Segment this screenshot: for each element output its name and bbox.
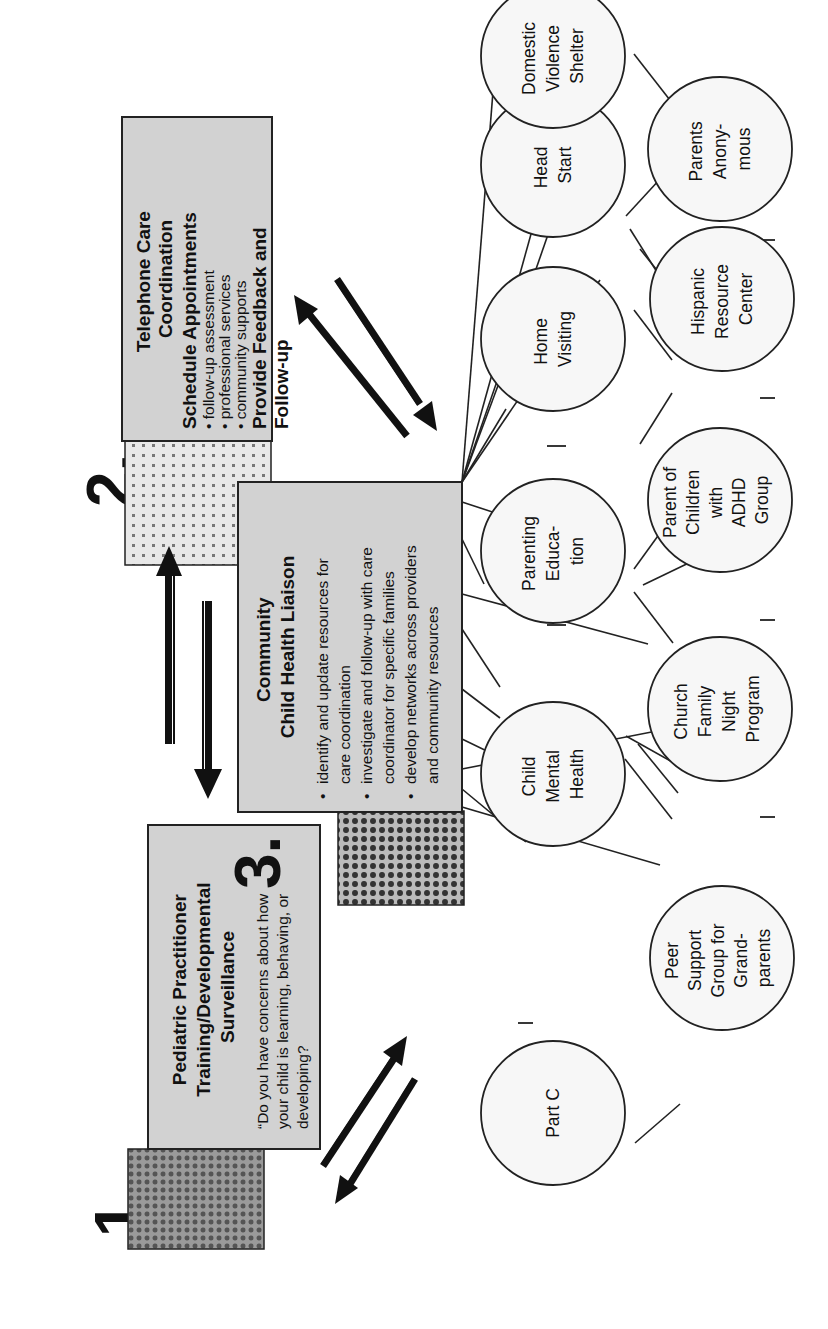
diagram-stage: 1. Pediatric Practitioner Training/Devel… — [0, 0, 828, 1329]
resource-node-home-visiting[interactable]: Home Visiting — [481, 267, 625, 411]
arrow-diagonal-right-icon — [319, 1036, 407, 1166]
resource-node-parents-anonymous[interactable]: Parents Anony- mous — [648, 77, 792, 221]
step-2-bullets: • follow-up assessment • professional se… — [200, 270, 249, 429]
resource-node-hispanic-resource-center[interactable]: Hispanic Resource Center — [650, 227, 794, 371]
resource-node-domestic-violence-shelter[interactable]: Domestic Violence Shelter — [481, 0, 625, 128]
resource-node-church-family-night[interactable]: Church Family Night Program — [648, 637, 792, 781]
step-2-bullet-2: • professional services — [216, 274, 233, 429]
svg-text:Part C: Part C — [543, 1088, 563, 1138]
step-2-bullet-3: • community supports — [232, 280, 249, 429]
arrow-down-icon — [194, 601, 222, 799]
arrow-up-icon — [156, 546, 182, 744]
step-3-number: 3. — [222, 836, 294, 889]
step-2-footer: Provide Feedback and — [249, 227, 270, 429]
arrow-pair-1-2 — [156, 546, 222, 799]
care-coordination-diagram: 1. Pediatric Practitioner Training/Devel… — [0, 0, 828, 1329]
step-2-bullet-1: • follow-up assessment — [200, 270, 217, 429]
svg-text:Child Mental Healt: Child Mental Health — [519, 745, 587, 802]
resource-node-peer-support-grandparents[interactable]: Peer Support Group for Grand- parents — [650, 886, 794, 1030]
step-3-photo — [338, 811, 464, 905]
svg-text:Domestic Violence: Domestic Violence Shelter — [519, 17, 587, 95]
resource-node-parent-adhd-group[interactable]: Parent of Children with ADHD Group — [648, 428, 792, 572]
step-1-photo — [128, 1149, 264, 1249]
step-3-group: 3. Community Child Health Liaison • iden… — [222, 482, 464, 905]
arrow-pair-2-3 — [294, 279, 437, 436]
resource-node-part-c[interactable]: Part C — [481, 1041, 625, 1185]
step-2-footer-line-2: Follow-up — [271, 339, 292, 429]
step-2-subtitle: Schedule Appointments — [179, 212, 200, 429]
arrow-diagonal-left-icon — [335, 1077, 415, 1204]
resource-node-parenting-education[interactable]: Parenting Educa- tion — [481, 479, 625, 623]
step-2-title: Telephone Care Coordination — [133, 206, 176, 352]
arrow-pair-1-3 — [319, 1036, 415, 1204]
resource-node-child-mental-health[interactable]: Child Mental Health — [481, 702, 625, 846]
